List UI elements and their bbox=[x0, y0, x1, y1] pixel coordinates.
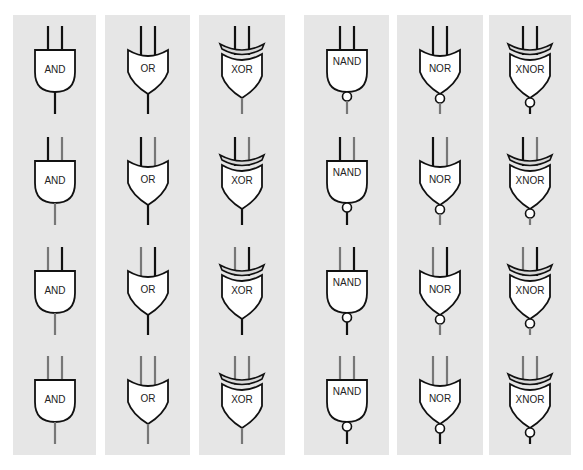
xor-band-icon bbox=[508, 155, 552, 166]
xor-band-icon bbox=[508, 265, 552, 276]
gate-and: AND bbox=[25, 241, 85, 336]
inverter-bubble-icon bbox=[342, 92, 351, 101]
xor-band-icon bbox=[508, 44, 552, 55]
xor-band-icon bbox=[220, 155, 264, 166]
inverter-bubble-icon bbox=[526, 209, 535, 218]
gate-label: NOR bbox=[429, 63, 451, 74]
gate-xor: XOR bbox=[212, 20, 272, 115]
xor-gate-body-icon bbox=[222, 165, 262, 209]
inverter-bubble-icon bbox=[526, 319, 535, 328]
gate-label: NAND bbox=[332, 277, 360, 288]
gate-nand: NAND bbox=[317, 131, 377, 226]
gate-and: AND bbox=[25, 20, 85, 115]
gate-label: AND bbox=[44, 64, 65, 75]
xor-band-icon bbox=[220, 265, 264, 276]
gate-label: XNOR bbox=[516, 64, 545, 75]
gate-label: XOR bbox=[231, 285, 253, 296]
gate-nand: NAND bbox=[317, 20, 377, 115]
gate-xor: XOR bbox=[212, 350, 272, 445]
gate-or: OR bbox=[118, 20, 178, 115]
gate-nand: NAND bbox=[317, 350, 377, 445]
inverter-bubble-icon bbox=[436, 94, 445, 103]
gate-xnor: XNOR bbox=[500, 20, 560, 115]
gate-label: NAND bbox=[332, 386, 360, 397]
gate-xnor: XNOR bbox=[500, 241, 560, 336]
gate-label: AND bbox=[44, 175, 65, 186]
gate-label: OR bbox=[140, 393, 155, 404]
gate-label: XOR bbox=[231, 175, 253, 186]
xor-band-icon bbox=[508, 374, 552, 385]
gate-nor: NOR bbox=[410, 350, 470, 445]
gate-label: XNOR bbox=[516, 394, 545, 405]
inverter-bubble-icon bbox=[436, 424, 445, 433]
xnor-gate-body-icon bbox=[510, 275, 550, 319]
gate-nand: NAND bbox=[317, 241, 377, 336]
gate-label: OR bbox=[140, 284, 155, 295]
xor-band-icon bbox=[220, 44, 264, 55]
gate-nor: NOR bbox=[410, 131, 470, 226]
gate-label: NAND bbox=[332, 56, 360, 67]
xnor-gate-body-icon bbox=[510, 165, 550, 209]
gate-label: NAND bbox=[332, 167, 360, 178]
gate-or: OR bbox=[118, 131, 178, 226]
xor-gate-body-icon bbox=[222, 275, 262, 319]
gate-xnor: XNOR bbox=[500, 131, 560, 226]
gate-label: XOR bbox=[231, 394, 253, 405]
xor-gate-body-icon bbox=[222, 54, 262, 98]
gate-or: OR bbox=[118, 350, 178, 445]
gate-xor: XOR bbox=[212, 131, 272, 226]
gate-label: NOR bbox=[429, 284, 451, 295]
gate-label: XOR bbox=[231, 64, 253, 75]
inverter-bubble-icon bbox=[436, 315, 445, 324]
inverter-bubble-icon bbox=[342, 313, 351, 322]
gate-or: OR bbox=[118, 241, 178, 336]
gate-label: NOR bbox=[429, 393, 451, 404]
gate-label: AND bbox=[44, 394, 65, 405]
gate-nor: NOR bbox=[410, 20, 470, 115]
inverter-bubble-icon bbox=[342, 203, 351, 212]
gate-and: AND bbox=[25, 350, 85, 445]
inverter-bubble-icon bbox=[342, 422, 351, 431]
gate-xnor: XNOR bbox=[500, 350, 560, 445]
gate-and: AND bbox=[25, 131, 85, 226]
gate-label: OR bbox=[140, 63, 155, 74]
xor-gate-body-icon bbox=[222, 384, 262, 428]
gate-xor: XOR bbox=[212, 241, 272, 336]
xnor-gate-body-icon bbox=[510, 54, 550, 98]
inverter-bubble-icon bbox=[436, 205, 445, 214]
gate-label: OR bbox=[140, 174, 155, 185]
gate-label: NOR bbox=[429, 174, 451, 185]
gate-nor: NOR bbox=[410, 241, 470, 336]
gate-label: AND bbox=[44, 285, 65, 296]
gate-label: XNOR bbox=[516, 285, 545, 296]
xnor-gate-body-icon bbox=[510, 384, 550, 428]
inverter-bubble-icon bbox=[526, 98, 535, 107]
inverter-bubble-icon bbox=[526, 428, 535, 437]
xor-band-icon bbox=[220, 374, 264, 385]
gate-label: XNOR bbox=[516, 175, 545, 186]
